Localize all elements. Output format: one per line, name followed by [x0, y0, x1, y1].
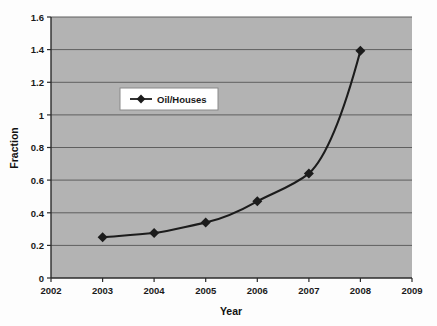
y-tick-label: 0	[39, 273, 44, 284]
x-tick-label: 2002	[40, 285, 61, 296]
y-tick-label: 1.4	[31, 44, 45, 55]
x-tick-label: 2007	[298, 285, 319, 296]
x-tick-label: 2005	[195, 285, 217, 296]
y-axis-title: Fraction	[8, 127, 20, 168]
y-tick-label: 1	[39, 110, 45, 121]
y-tick-labels: 1.6 1.4 1.2 1 0.8 0.6 0.4 0.2 0	[31, 12, 45, 284]
chart-legend[interactable]: Oil/Houses	[120, 88, 218, 110]
y-tick-label: 0.8	[31, 142, 44, 153]
x-tick-label: 2006	[247, 285, 268, 296]
chart-container: 1.6 1.4 1.2 1 0.8 0.6 0.4 0.2 0 2002 200…	[0, 0, 437, 326]
x-tick-label: 2009	[401, 285, 422, 296]
line-chart: 1.6 1.4 1.2 1 0.8 0.6 0.4 0.2 0 2002 200…	[0, 0, 437, 326]
x-axis-title: Year	[220, 305, 242, 317]
legend-entry-label: Oil/Houses	[157, 94, 207, 105]
x-tick-label: 2003	[92, 285, 113, 296]
x-tick-label: 2004	[144, 285, 166, 296]
y-tick-label: 1.6	[31, 12, 44, 23]
x-tick-label: 2008	[350, 285, 371, 296]
y-tick-label: 1.2	[31, 77, 44, 88]
y-tick-label: 0.2	[31, 240, 44, 251]
y-tick-label: 0.6	[31, 175, 44, 186]
y-tick-label: 0.4	[31, 208, 45, 219]
